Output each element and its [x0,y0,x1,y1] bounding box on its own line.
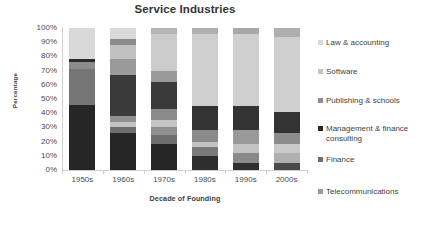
bar-segment[interactable] [151,135,177,145]
legend-item-label: Software [326,67,358,77]
bar-segment[interactable] [274,153,300,163]
bar-segment[interactable] [274,133,300,144]
bar-segment[interactable] [233,130,259,144]
x-axis-title: Decade of Founding [55,194,315,203]
bar-stack [69,28,95,170]
legend-item[interactable]: Software [318,67,445,77]
legend-item[interactable]: Finance [318,155,445,165]
bar-segment[interactable] [151,71,177,82]
bar-segment[interactable] [233,106,259,130]
chart-title: Service Industries [55,3,315,15]
bar-segment[interactable] [69,59,95,62]
bar-segment[interactable] [233,28,259,34]
bar-group[interactable] [110,28,136,170]
bar-segment[interactable] [192,106,218,130]
bar-segment[interactable] [110,28,136,39]
bar-group[interactable] [274,28,300,170]
y-axis-tick: 70% [41,67,57,75]
bar-segment[interactable] [110,127,136,133]
bar-stack [274,28,300,170]
plot-area [62,28,307,170]
bar-segment[interactable] [274,163,300,170]
chart-legend: Law & accountingSoftwarePublishing & sch… [318,32,445,212]
legend-item[interactable]: Telecommunications [318,187,445,197]
y-axis-tick: 100% [37,24,57,32]
legend-swatch-icon [318,189,323,194]
legend-item-label: Management & finance consulting [326,124,408,144]
bar-segment[interactable] [192,28,218,34]
y-axis-tick: 40% [41,109,57,117]
x-axis-tick-mark [103,171,104,174]
legend-swatch-icon [318,69,323,74]
bar-segment[interactable] [151,127,177,134]
x-axis-tick: 1980s [185,175,226,184]
y-axis-tick: 90% [41,38,57,46]
bar-segment[interactable] [151,28,177,34]
y-axis-tick-labels: 0%10%20%30%40%50%60%70%80%90%100% [20,28,60,170]
bar-segment[interactable] [233,144,259,153]
legend-swatch-icon [318,98,323,103]
x-axis-tick-mark [266,171,267,174]
bar-segment[interactable] [274,112,300,133]
x-axis-tick-mark [225,171,226,174]
legend-item[interactable]: Law & accounting [318,38,445,48]
y-axis-tick: 60% [41,81,57,89]
bar-segment[interactable] [69,28,95,59]
legend-item-label: Law & accounting [326,38,389,48]
bar-segment[interactable] [151,120,177,127]
bar-segment[interactable] [110,122,136,128]
x-axis-tick: 1960s [103,175,144,184]
bar-group[interactable] [151,28,177,170]
bar-segment[interactable] [151,34,177,71]
legend-item[interactable]: Publishing & schools [318,96,445,106]
x-axis-tick-mark [62,171,63,174]
bar-segment[interactable] [233,153,259,163]
legend-swatch-icon [318,157,323,162]
bar-segment[interactable] [110,116,136,122]
legend-swatch-icon [318,126,323,131]
y-axis-title: Percentage [11,61,18,121]
bar-segment[interactable] [110,133,136,170]
bar-group[interactable] [192,28,218,170]
bar-segment[interactable] [110,59,136,75]
legend-item-label: Telecommunications [326,187,398,197]
legend-item-label: Publishing & schools [326,96,400,106]
bar-segment[interactable] [274,28,300,37]
bar-group[interactable] [69,28,95,170]
y-axis-tick: 0% [45,166,57,174]
y-axis-tick: 20% [41,138,57,146]
bar-stack [110,28,136,170]
x-axis-tick-labels: 1950s1960s1970s1980s1990s2000s [62,175,308,189]
y-axis-tick: 30% [41,123,57,131]
x-axis-tick: 2000s [266,175,307,184]
bar-segment[interactable] [69,62,95,69]
bar-segment[interactable] [192,130,218,141]
y-axis-tick: 50% [41,95,57,103]
x-axis-tick: 1990s [225,175,266,184]
bar-segment[interactable] [151,109,177,120]
bar-segment[interactable] [110,45,136,59]
x-axis-tick-mark [144,171,145,174]
bar-segment[interactable] [192,142,218,148]
bar-segment[interactable] [274,144,300,153]
bar-segment[interactable] [69,69,95,105]
bar-segment[interactable] [69,105,95,170]
bar-segment[interactable] [192,147,218,156]
bar-stack [151,28,177,170]
bar-segment[interactable] [274,37,300,112]
x-axis-tick: 1950s [62,175,103,184]
bar-segment[interactable] [233,163,259,170]
x-axis-tick: 1970s [144,175,185,184]
y-axis-tick: 80% [41,52,57,60]
legend-item[interactable]: Management & finance consulting [318,124,445,144]
bar-group[interactable] [233,28,259,170]
x-axis-tick-mark [185,171,186,174]
y-axis-tick: 10% [41,152,57,160]
bar-segment[interactable] [233,34,259,106]
bar-segment[interactable] [110,75,136,116]
bar-segment[interactable] [192,34,218,106]
bar-segment[interactable] [192,156,218,170]
bar-segment[interactable] [110,39,136,45]
bar-segment[interactable] [151,82,177,109]
bar-segment[interactable] [151,144,177,170]
